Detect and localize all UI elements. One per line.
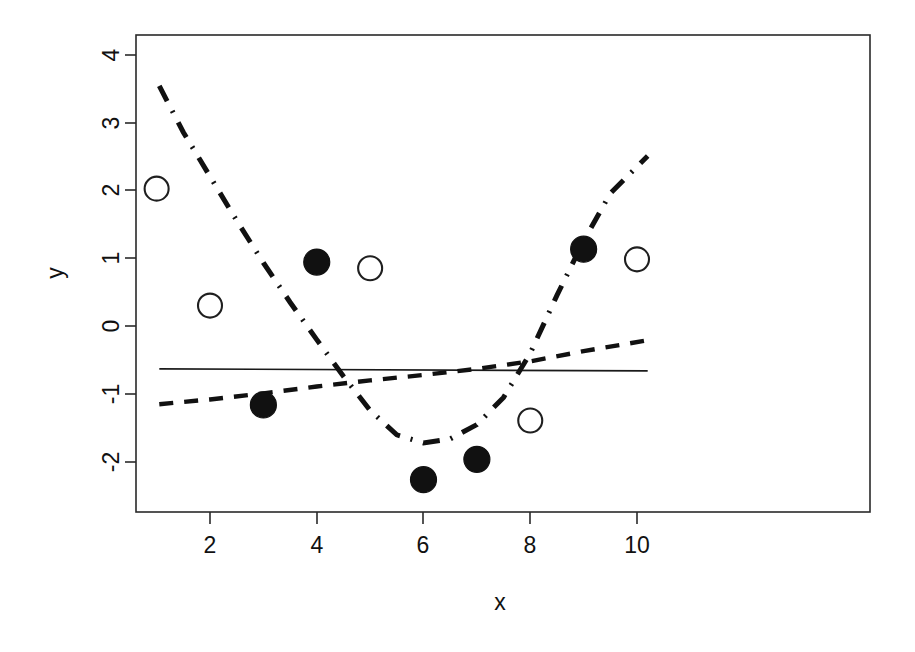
scatter-plot-canvas: 4 3 2 1 0 -1 -2 2 4 6 8 10 x y	[0, 0, 915, 652]
y-tick-label-1: 1	[98, 252, 124, 265]
data-point-open	[625, 247, 649, 271]
data-point-filled	[304, 249, 330, 275]
x-tick-label-6: 6	[417, 532, 430, 558]
data-point-open	[518, 409, 542, 433]
y-axis-title: y	[42, 267, 68, 279]
y-tick-label-neg1: -1	[98, 384, 124, 404]
dashed-fit-line	[159, 340, 647, 404]
data-point-filled	[411, 467, 437, 493]
x-tick-label-8: 8	[524, 532, 537, 558]
data-point-open	[198, 294, 222, 318]
data-point-filled	[250, 392, 276, 418]
y-tick-label-3: 3	[98, 117, 124, 130]
x-tick-label-4: 4	[311, 532, 324, 558]
marker-series-layer	[145, 177, 649, 493]
y-tick-label-4: 4	[98, 48, 124, 61]
x-tick-label-10: 10	[624, 532, 650, 558]
y-tick-label-2: 2	[98, 184, 124, 197]
data-point-filled	[464, 446, 490, 472]
x-axis-title: x	[494, 589, 506, 615]
y-tick-label-0: 0	[98, 320, 124, 333]
y-axis-tick-labels: 4 3 2 1 0 -1 -2	[98, 48, 124, 472]
x-axis-tick-labels: 2 4 6 8 10	[204, 532, 650, 558]
y-axis-ticks	[125, 55, 136, 462]
dashdot-fit-curve	[159, 86, 647, 443]
x-axis-ticks	[210, 512, 637, 524]
data-point-open	[145, 177, 169, 201]
solid-fit-line	[159, 369, 647, 371]
plot-frame	[136, 35, 870, 512]
data-point-filled	[571, 236, 597, 262]
chart-figure: 4 3 2 1 0 -1 -2 2 4 6 8 10 x y	[0, 0, 915, 652]
y-tick-label-neg2: -2	[98, 452, 124, 472]
data-point-open	[358, 256, 382, 280]
x-tick-label-2: 2	[204, 532, 217, 558]
line-series-layer	[159, 86, 647, 443]
